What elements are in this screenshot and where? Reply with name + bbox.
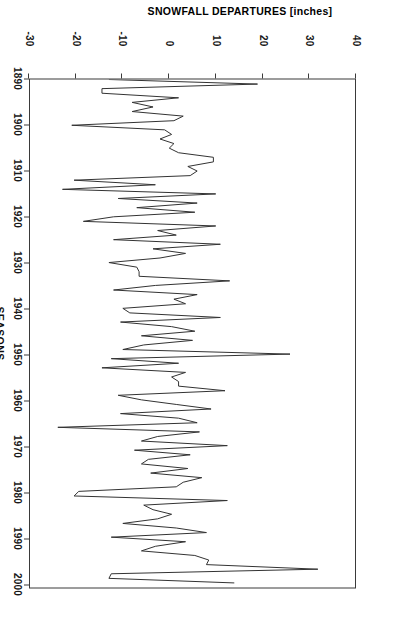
y-tick-mark [121,73,122,78]
y-tick-mark [168,73,169,78]
y-axis-title-text: SNOWFALL DEPARTURES [inches] [148,4,333,16]
rotated-figure-wrapper: 1890 1900 1910 1920 1930 1940 1950 1960 … [0,0,404,643]
y-tick-mark [215,73,216,78]
x-tick-label-1940: 1940 [12,296,23,319]
x-tick-label-1900: 1900 [12,112,23,135]
x-tick-mark [24,446,29,447]
x-tick-mark [24,584,29,585]
y-tick-mark [308,73,309,78]
series-line-snowfall-departures [30,79,355,587]
x-tick-mark [24,354,29,355]
x-tick-label-1980: 1980 [12,480,23,503]
x-axis-title: SEASONS [0,78,6,588]
y-tick-label-20: 20 [257,34,268,46]
y-tick-label-10: 10 [210,34,221,46]
x-tick-mark [24,124,29,125]
x-tick-label-2000: 2000 [12,572,23,595]
y-tick-mark [28,73,29,78]
x-tick-label-1930: 1930 [12,250,23,273]
x-tick-mark [24,492,29,493]
y-tick-mark [75,73,76,78]
chart-page: 1890 1900 1910 1920 1930 1940 1950 1960 … [0,0,404,643]
x-tick-label-1920: 1920 [12,204,23,227]
plot-area [29,78,356,588]
x-tick-label-1960: 1960 [12,388,23,411]
x-tick-mark [24,400,29,401]
y-tick-label-minus10: -10 [117,31,128,46]
chart-figure: 1890 1900 1910 1920 1930 1940 1950 1960 … [0,0,404,643]
x-tick-mark [24,216,29,217]
x-tick-label-1970: 1970 [12,434,23,457]
x-tick-label-1990: 1990 [12,526,23,549]
x-tick-label-1950: 1950 [12,342,23,365]
y-tick-label-0: 0 [164,40,175,46]
y-tick-mark [262,73,263,78]
x-tick-mark [24,538,29,539]
y-tick-label-40: 40 [351,34,362,46]
x-tick-mark [24,170,29,171]
x-tick-label-1890: 1890 [12,66,23,89]
y-tick-mark [355,73,356,78]
x-tick-label-1910: 1910 [12,158,23,181]
y-tick-label-30: 30 [304,34,315,46]
y-tick-label-minus20: -20 [70,31,81,46]
y-tick-label-minus30: -30 [24,31,35,46]
x-tick-mark [24,262,29,263]
y-axis-title: SNOWFALL DEPARTURES [inches] [77,0,404,20]
x-tick-mark [24,308,29,309]
